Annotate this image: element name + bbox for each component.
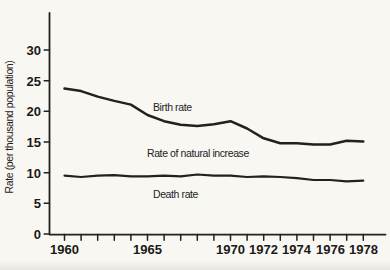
y-tick-label-5: 5 [10, 196, 41, 211]
y-tick-label-10: 10 [10, 166, 41, 181]
death-rate-series-label: Death rate [153, 188, 198, 200]
y-tick-label-15: 15 [10, 135, 41, 150]
birth-rate-line [65, 89, 364, 145]
death-rate-line [65, 175, 364, 182]
vital-rates-chart-figure: Rate (per thousand population) 30 25 20 … [0, 0, 390, 270]
y-tick-label-0: 0 [10, 227, 41, 242]
natural-increase-series-label: Rate of natural increase [147, 147, 249, 159]
x-tick-label-1978: 1978 [343, 242, 384, 257]
x-tick-label-1965: 1965 [127, 242, 168, 257]
y-tick-label-25: 25 [10, 74, 41, 89]
birth-rate-series-label: Birth rate [153, 101, 192, 113]
y-tick-label-30: 30 [10, 43, 41, 58]
line-chart-canvas [0, 0, 390, 270]
y-tick-label-20: 20 [10, 104, 41, 119]
x-tick-label-1960: 1960 [44, 242, 85, 257]
